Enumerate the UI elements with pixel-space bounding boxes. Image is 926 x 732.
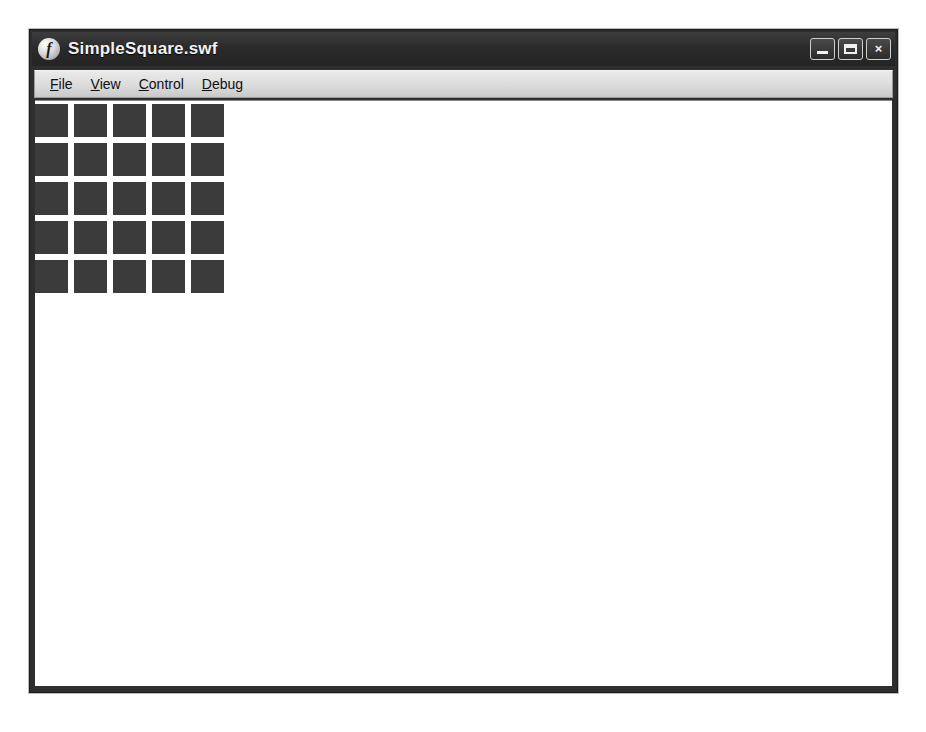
grid-square[interactable] <box>191 143 224 176</box>
grid-square[interactable] <box>113 104 146 137</box>
grid-square[interactable] <box>74 143 107 176</box>
maximize-button[interactable] <box>838 38 863 60</box>
caption-button-group: × <box>810 38 891 60</box>
grid-square[interactable] <box>35 260 68 293</box>
grid-square[interactable] <box>35 104 68 137</box>
grid-square[interactable] <box>113 260 146 293</box>
menu-label-file: ile <box>59 76 73 92</box>
maximize-icon <box>844 44 857 54</box>
close-icon: × <box>867 39 890 59</box>
menu-item-control[interactable]: Control <box>130 74 193 94</box>
grid-square[interactable] <box>35 143 68 176</box>
grid-square[interactable] <box>191 104 224 137</box>
menu-item-view[interactable]: View <box>82 74 130 94</box>
grid-square[interactable] <box>152 182 185 215</box>
grid-square[interactable] <box>191 221 224 254</box>
grid-square[interactable] <box>191 260 224 293</box>
grid-square[interactable] <box>74 221 107 254</box>
grid-square[interactable] <box>191 182 224 215</box>
flash-stage[interactable] <box>35 100 892 686</box>
menu-label-control: ontrol <box>149 76 184 92</box>
grid-square[interactable] <box>152 221 185 254</box>
close-button[interactable]: × <box>866 38 891 60</box>
grid-square[interactable] <box>113 143 146 176</box>
grid-square[interactable] <box>113 221 146 254</box>
menu-item-file[interactable]: File <box>41 74 82 94</box>
grid-square[interactable] <box>113 182 146 215</box>
menu-label-view: iew <box>100 76 121 92</box>
grid-square[interactable] <box>74 104 107 137</box>
menu-label-debug: ebug <box>212 76 243 92</box>
menu-item-debug[interactable]: Debug <box>193 74 252 94</box>
window-title: SimpleSquare.swf <box>68 39 810 59</box>
grid-square[interactable] <box>152 143 185 176</box>
minimize-button[interactable] <box>810 38 835 60</box>
menu-accel-debug: D <box>202 76 212 92</box>
grid-square[interactable] <box>74 182 107 215</box>
flash-player-window: f SimpleSquare.swf × File View Control D… <box>29 29 898 693</box>
grid-square[interactable] <box>152 104 185 137</box>
flash-logo-icon: f <box>38 38 60 60</box>
menu-accel-file: F <box>50 76 59 92</box>
grid-square[interactable] <box>152 260 185 293</box>
grid-square[interactable] <box>35 182 68 215</box>
title-bar[interactable]: f SimpleSquare.swf × <box>32 32 895 66</box>
menu-accel-view: V <box>91 76 100 92</box>
menu-accel-control: C <box>139 76 149 92</box>
square-grid <box>35 104 224 293</box>
grid-square[interactable] <box>35 221 68 254</box>
menu-bar: File View Control Debug <box>34 70 893 98</box>
grid-square[interactable] <box>74 260 107 293</box>
minimize-icon <box>817 51 828 54</box>
